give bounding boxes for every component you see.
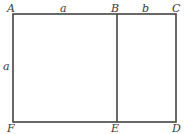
segment-label-bc: b [142,2,149,15]
golden-rectangle-diagram: A B C D E F a b a [0,0,184,134]
segment-label-ab: a [60,2,67,15]
outer-rectangle-acdf [13,14,176,122]
vertex-label-f: F [6,122,15,134]
vertex-label-a: A [6,2,15,15]
vertex-label-b: B [110,2,119,15]
vertex-label-c: C [172,2,181,15]
segment-label-af: a [3,60,10,73]
vertex-label-d: D [171,122,181,134]
vertex-label-e: E [110,122,119,134]
